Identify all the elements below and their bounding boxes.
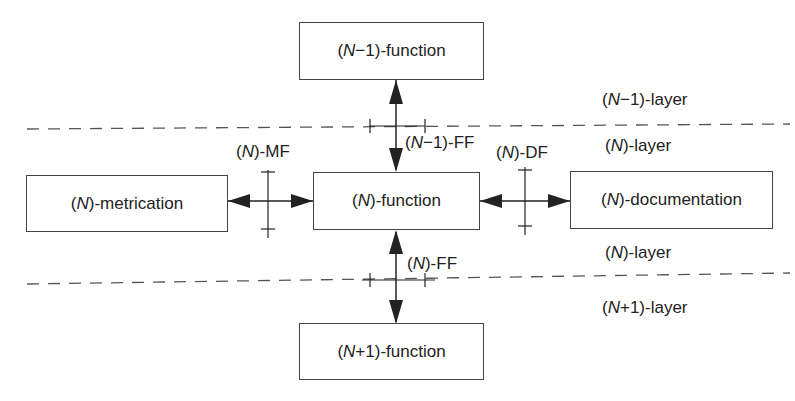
n-minus-1-ff-label: (N−1)-FF bbox=[405, 133, 474, 153]
label-var: N bbox=[358, 191, 370, 211]
n-documentation-box: (N)-documentation bbox=[570, 171, 773, 229]
n-minus-1-layer-label: (N−1)-layer bbox=[602, 90, 688, 110]
label-var: N bbox=[76, 194, 88, 214]
label-var: N bbox=[343, 342, 355, 362]
label-var: N bbox=[343, 41, 355, 61]
layer-boundary-lower bbox=[27, 273, 790, 284]
n-plus-1-function-box: (N+1)-function bbox=[299, 323, 484, 380]
n-layer-lower-label: (N)-layer bbox=[605, 243, 671, 263]
n-ff-label: (N)-FF bbox=[407, 254, 457, 274]
label-suffix: )-metrication bbox=[89, 194, 183, 214]
n-layer-upper-label: (N)-layer bbox=[605, 136, 671, 156]
n-metrication-box: (N)-metrication bbox=[26, 175, 228, 232]
label-var: N bbox=[607, 190, 619, 210]
n-mf-label: (N)-MF bbox=[236, 142, 290, 162]
label-suffix: +1)-function bbox=[355, 342, 445, 362]
n-function-box: (N)-function bbox=[313, 172, 480, 230]
label-suffix: )-documentation bbox=[619, 190, 742, 210]
label-suffix: −1)-function bbox=[355, 41, 445, 61]
n-minus-1-function-box: (N−1)-function bbox=[299, 22, 484, 80]
n-plus-1-layer-label: (N+1)-layer bbox=[602, 298, 688, 318]
label-suffix: )-function bbox=[370, 191, 441, 211]
n-df-label: (N)-DF bbox=[496, 143, 548, 163]
